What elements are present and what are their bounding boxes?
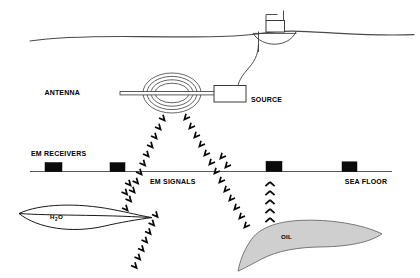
em-receiver-3 [266, 161, 282, 171]
em-receiver-1 [45, 163, 62, 172]
tow-cable [238, 44, 259, 87]
antenna-boom [120, 92, 215, 95]
ship-cabin [266, 21, 285, 33]
signal-path-return-right [220, 153, 231, 168]
csem-survey-diagram: ANTENNA SOURCE EM RECEIVERS EM SIGNALS S… [0, 0, 420, 278]
em-receivers-label: EM RECEIVERS [31, 150, 86, 157]
signal-path-up-right [265, 182, 274, 222]
em-receiver-array [45, 161, 357, 172]
water-body [19, 205, 152, 229]
signal-path-down-left [122, 115, 165, 211]
sea-floor-label: SEA FLOOR [345, 178, 387, 185]
source-box [214, 86, 246, 103]
oil-body [238, 220, 382, 271]
em-receiver-4 [342, 162, 357, 172]
oil-body-label: OIL [281, 233, 292, 240]
em-receiver-2 [110, 163, 125, 172]
water-label-o: O [58, 213, 63, 220]
antenna-label: ANTENNA [44, 89, 80, 96]
sea-surface-line [30, 31, 414, 41]
water-body-label: H 2 O [50, 213, 63, 222]
source-label: SOURCE [251, 96, 282, 103]
ship-flag [266, 15, 278, 21]
signal-path-up-left [122, 180, 158, 268]
diagram-canvas: ANTENNA SOURCE EM RECEIVERS EM SIGNALS S… [0, 0, 420, 278]
source-unit [214, 86, 246, 103]
signal-path-down-right [184, 114, 250, 228]
em-signals-label: EM SIGNALS [150, 178, 196, 185]
